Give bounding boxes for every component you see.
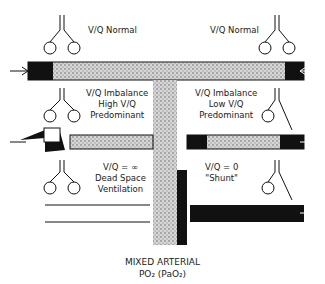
label-mid-right: V/Q ImbalanceLow V/QPredominant bbox=[195, 88, 257, 121]
mid-left-vessel bbox=[70, 135, 153, 149]
label-bottom-left: V/Q = ∞Dead SpaceVentilation bbox=[95, 162, 146, 195]
central-column bbox=[153, 80, 177, 245]
label-mid-left: V/Q ImbalanceHigh V/QPredominant bbox=[86, 88, 148, 121]
mixed-arterial-label: MIXED ARTERIAL bbox=[0, 256, 325, 268]
top-vessel bbox=[28, 62, 304, 80]
label-bottom-right: V/Q = 0"Shunt" bbox=[205, 162, 238, 184]
pao2-label: PO₂ (PaO₂) bbox=[0, 268, 325, 280]
label-top-left: V/Q Normal bbox=[88, 25, 137, 36]
label-top-right: V/Q Normal bbox=[210, 25, 259, 36]
shunt-vessel bbox=[190, 205, 304, 222]
vq-diagram bbox=[0, 0, 325, 284]
